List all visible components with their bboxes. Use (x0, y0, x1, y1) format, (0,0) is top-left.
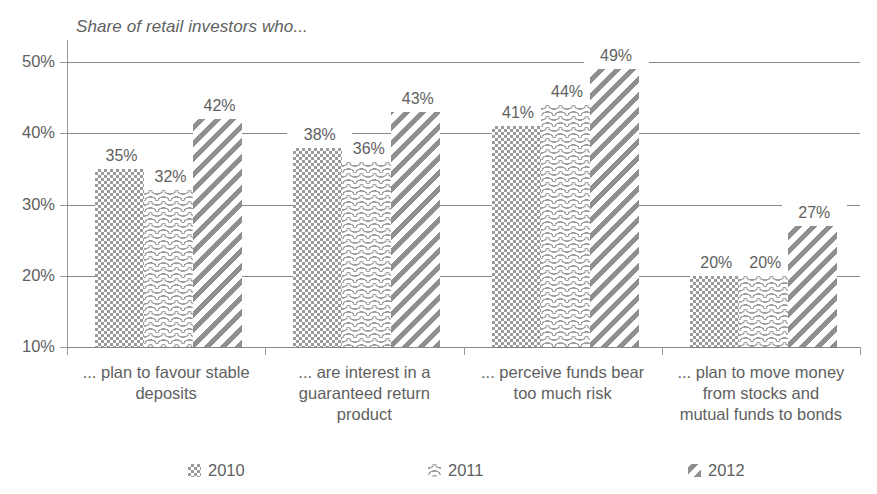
bar-2011-group4 (739, 276, 788, 347)
legend-label: 2010 (208, 461, 245, 480)
legend-item-2012[interactable]: 2012 (688, 458, 745, 482)
y-tick-label: 20% (0, 266, 55, 285)
bar-2011-group1 (144, 190, 193, 347)
y-tick-label: 40% (0, 123, 55, 142)
category-label-line: mutual funds to bonds (654, 404, 868, 425)
category-label-line: ... plan to favour stable (59, 362, 273, 383)
bar-2012-group2 (391, 112, 440, 347)
category-label: ... plan to favour stabledeposits (59, 362, 273, 404)
bar-2012-group3 (590, 69, 639, 347)
bar-2012-group4 (788, 226, 837, 347)
category-label-line: guaranteed return (257, 383, 471, 404)
value-label: 43% (385, 90, 450, 108)
bar-2012-group1 (193, 119, 242, 347)
bar-2010-group1 (95, 169, 144, 347)
value-label: 49% (584, 47, 649, 65)
bar-2010-group4 (690, 276, 739, 347)
category-label: ... plan to move moneyfrom stocks andmut… (654, 362, 868, 425)
category-label-line: too much risk (456, 383, 670, 404)
category-label-line: ... plan to move money (654, 362, 868, 383)
legend-item-2011[interactable]: 2011 (428, 458, 483, 482)
category-label-line: deposits (59, 383, 273, 404)
bar-2011-group3 (541, 105, 590, 347)
legend-item-2010[interactable]: 2010 (188, 458, 245, 482)
swatch-2011-icon (428, 464, 441, 477)
bar-2010-group2 (293, 148, 342, 348)
value-label: 27% (782, 204, 847, 222)
category-label-line: ... perceive funds bear (456, 362, 670, 383)
category-label: ... are interest in aguaranteed returnpr… (257, 362, 471, 425)
value-label: 42% (187, 97, 252, 115)
x-tick-mark (67, 347, 68, 355)
bar-2010-group3 (492, 126, 541, 347)
chart-title: Share of retail investors who... (76, 17, 308, 37)
y-tick-label: 10% (0, 337, 55, 356)
y-tick-label: 30% (0, 195, 55, 214)
bar-2011-group2 (342, 162, 391, 347)
x-tick-mark (662, 347, 663, 355)
bar-chart: Share of retail investors who... 10%20%3… (0, 0, 877, 494)
category-label-line: ... are interest in a (257, 362, 471, 383)
category-label-line: from stocks and (654, 383, 868, 404)
x-tick-mark (464, 347, 465, 355)
x-tick-mark (860, 347, 861, 355)
swatch-2010-icon (188, 464, 201, 477)
swatch-2012-icon (688, 464, 701, 477)
legend-label: 2012 (708, 461, 745, 480)
category-label-line: product (257, 404, 471, 425)
value-label: 35% (89, 147, 154, 165)
y-tick-label: 50% (0, 52, 55, 71)
category-label: ... perceive funds beartoo much risk (456, 362, 670, 404)
x-tick-mark (265, 347, 266, 355)
legend-label: 2011 (448, 461, 483, 480)
